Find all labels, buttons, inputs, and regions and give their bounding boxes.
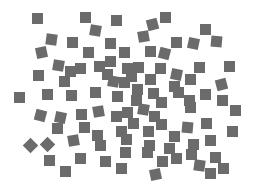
gray-square bbox=[169, 131, 180, 142]
gray-square bbox=[33, 108, 46, 121]
gray-square bbox=[200, 89, 211, 100]
gray-square bbox=[22, 137, 38, 153]
gray-square bbox=[120, 147, 131, 158]
gray-square bbox=[121, 134, 132, 145]
gray-square bbox=[44, 155, 55, 166]
gray-square bbox=[205, 135, 216, 146]
gray-square bbox=[75, 63, 86, 74]
gray-square bbox=[137, 103, 150, 116]
gray-square bbox=[156, 97, 167, 108]
gray-square bbox=[107, 75, 120, 88]
gray-square bbox=[52, 59, 65, 72]
gray-square bbox=[137, 30, 150, 43]
gray-square bbox=[132, 84, 143, 95]
gray-square bbox=[148, 167, 161, 180]
gray-square bbox=[79, 122, 90, 133]
gray-square bbox=[119, 47, 130, 58]
gray-square bbox=[157, 156, 168, 167]
gray-square bbox=[145, 74, 156, 85]
gray-square bbox=[194, 62, 205, 73]
gray-square bbox=[39, 136, 55, 152]
gray-square bbox=[218, 163, 229, 174]
gray-square bbox=[42, 89, 53, 100]
gray-square bbox=[33, 70, 44, 81]
gray-square bbox=[34, 45, 47, 58]
gray-square bbox=[80, 12, 91, 23]
gray-square bbox=[67, 134, 80, 147]
gray-square bbox=[200, 24, 211, 35]
gray-square bbox=[210, 152, 221, 163]
gray-square bbox=[126, 71, 137, 82]
gray-square bbox=[100, 156, 111, 167]
gray-square bbox=[205, 168, 216, 179]
gray-square bbox=[32, 13, 43, 24]
gray-square bbox=[186, 36, 199, 49]
scatter-canvas bbox=[0, 0, 254, 190]
gray-square bbox=[143, 126, 154, 137]
gray-square bbox=[111, 15, 122, 26]
gray-square bbox=[145, 17, 158, 30]
gray-square bbox=[92, 105, 105, 118]
gray-square bbox=[60, 166, 71, 177]
gray-square bbox=[214, 77, 227, 90]
gray-square bbox=[217, 95, 228, 106]
gray-square bbox=[169, 67, 182, 80]
gray-square bbox=[171, 153, 182, 164]
gray-square bbox=[230, 105, 241, 116]
gray-square bbox=[105, 56, 116, 67]
gray-square bbox=[181, 121, 193, 133]
gray-square bbox=[227, 126, 238, 137]
gray-square bbox=[173, 87, 184, 98]
gray-square bbox=[105, 38, 116, 49]
gray-square bbox=[116, 163, 127, 174]
gray-square bbox=[155, 63, 166, 74]
gray-square bbox=[185, 74, 196, 85]
gray-square bbox=[188, 139, 199, 150]
gray-square bbox=[142, 147, 153, 158]
gray-square bbox=[76, 109, 87, 120]
gray-square bbox=[59, 76, 70, 87]
gray-square bbox=[210, 35, 222, 47]
gray-square bbox=[186, 149, 197, 160]
gray-square bbox=[67, 37, 78, 48]
gray-square bbox=[157, 46, 170, 59]
gray-square bbox=[224, 61, 235, 72]
gray-square bbox=[45, 33, 57, 45]
gray-square bbox=[83, 47, 94, 58]
gray-square bbox=[156, 119, 167, 130]
gray-square bbox=[128, 118, 139, 129]
gray-square bbox=[52, 123, 63, 134]
gray-square bbox=[75, 153, 86, 164]
gray-square bbox=[193, 159, 205, 171]
gray-square bbox=[112, 91, 123, 102]
gray-square bbox=[145, 46, 156, 57]
gray-square bbox=[185, 102, 196, 113]
gray-square bbox=[14, 92, 25, 103]
gray-square bbox=[89, 24, 102, 37]
gray-square bbox=[66, 90, 77, 101]
gray-square bbox=[122, 107, 133, 118]
gray-square bbox=[90, 87, 101, 98]
gray-square bbox=[111, 111, 122, 122]
gray-square bbox=[95, 140, 106, 151]
gray-square bbox=[201, 118, 212, 129]
gray-square bbox=[171, 37, 182, 48]
gray-square bbox=[160, 12, 171, 23]
